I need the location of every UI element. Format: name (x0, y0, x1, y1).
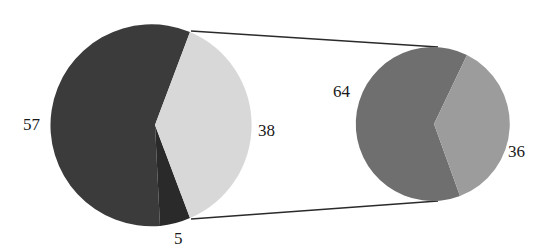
connector-line-bottom (191, 201, 438, 219)
label-secondary-64: 64 (333, 82, 351, 101)
secondary-pie (356, 47, 510, 201)
main-pie (50, 24, 251, 226)
label-secondary-36: 36 (508, 142, 525, 161)
label-main-57: 57 (23, 115, 41, 134)
connector-line-top (191, 31, 438, 47)
label-main-5: 5 (174, 229, 183, 248)
pie-of-pie-chart: 57 38 5 64 36 (0, 0, 541, 249)
label-main-38: 38 (258, 121, 275, 140)
